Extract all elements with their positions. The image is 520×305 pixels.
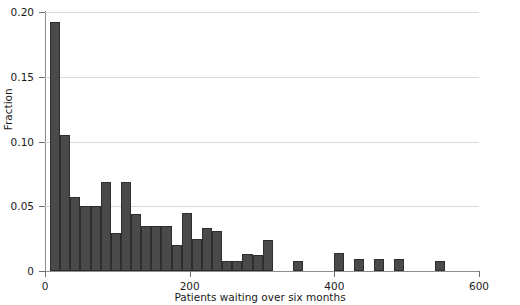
y-tick-mark (39, 206, 45, 207)
histogram-bar (435, 261, 445, 271)
histogram-bar (192, 239, 202, 271)
histogram-bar (263, 240, 273, 271)
x-tick-mark (190, 271, 191, 277)
y-tick-label: 0.05 (0, 201, 34, 212)
histogram-bar (374, 259, 384, 271)
histogram-bar (151, 226, 161, 271)
histogram-bar (60, 135, 70, 271)
x-axis-label: Patients waiting over six months (0, 292, 520, 303)
histogram-bar (80, 206, 90, 271)
histogram-bar (293, 261, 303, 271)
histogram-bar (232, 261, 242, 271)
x-axis-line (45, 271, 480, 272)
histogram-bar (50, 22, 60, 271)
x-tick-label: 200 (180, 281, 200, 292)
histogram-bar (91, 206, 101, 271)
y-tick-mark (39, 142, 45, 143)
histogram-bar (70, 197, 80, 271)
plot-area (45, 12, 479, 271)
x-tick-label: 400 (324, 281, 344, 292)
histogram-bar (161, 226, 171, 271)
histogram-bar (111, 233, 121, 271)
histogram-bar (222, 261, 232, 271)
histogram-bar (101, 182, 111, 271)
y-tick-label: 0.20 (0, 7, 34, 18)
bar-series (45, 12, 479, 271)
y-tick-mark (39, 12, 45, 13)
x-tick-mark (45, 271, 46, 277)
x-tick-mark (479, 271, 480, 277)
histogram-bar (394, 259, 404, 271)
histogram-bar (354, 259, 364, 271)
y-axis-label: Fraction (3, 59, 14, 159)
y-tick-label: 0 (0, 266, 34, 277)
x-tick-mark (334, 271, 335, 277)
histogram-bar (182, 213, 192, 271)
x-tick-label: 0 (42, 281, 49, 292)
histogram-bar (242, 254, 252, 271)
y-tick-mark (39, 77, 45, 78)
x-tick-label: 600 (469, 281, 489, 292)
histogram-bar (131, 214, 141, 271)
histogram-figure: 00.050.100.150.20 0200400600 Fraction Pa… (0, 0, 520, 305)
histogram-bar (253, 255, 263, 271)
histogram-bar (334, 253, 344, 271)
histogram-bar (212, 231, 222, 271)
histogram-bar (121, 182, 131, 271)
histogram-bar (202, 228, 212, 271)
histogram-bar (172, 245, 182, 271)
histogram-bar (141, 226, 151, 271)
